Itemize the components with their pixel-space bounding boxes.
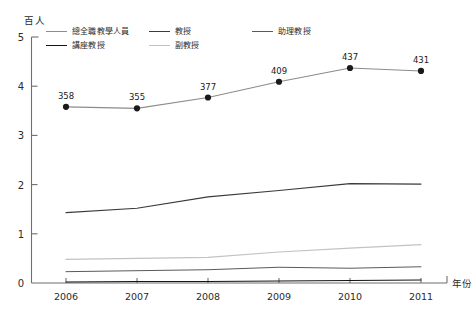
x-axis-title: 年份 <box>452 276 472 290</box>
series-line-3 <box>66 280 421 282</box>
legend-item-助理教授[interactable]: 助理教授 <box>252 28 311 36</box>
y-axis-tick-label: 5 <box>6 32 24 43</box>
x-axis-tick-label: 2007 <box>117 291 157 302</box>
legend-row: 講座教授副教授 <box>46 40 376 51</box>
x-axis-tick-label: 2010 <box>330 291 370 302</box>
legend-label: 教授 <box>175 28 191 36</box>
data-point-label: 431 <box>404 55 438 65</box>
data-point-marker <box>134 105 140 111</box>
legend-swatch-icon <box>252 31 273 32</box>
legend-swatch-icon <box>46 45 67 46</box>
data-point-label: 358 <box>49 91 83 101</box>
x-axis-tick-label: 2008 <box>188 291 228 302</box>
legend-swatch-icon <box>46 31 67 32</box>
data-point-label: 377 <box>191 82 225 92</box>
data-point-marker <box>347 65 353 71</box>
legend-item-講座教授[interactable]: 講座教授 <box>46 42 105 50</box>
legend-item-總全職教學人員[interactable]: 總全職教學人員 <box>46 28 129 36</box>
data-point-label: 409 <box>262 66 296 76</box>
legend-label: 總全職教學人員 <box>72 28 129 36</box>
y-axis-tick-label: 2 <box>6 179 24 190</box>
legend-label: 講座教授 <box>72 42 105 50</box>
y-axis-tick-label: 0 <box>6 278 24 289</box>
chart-legend: 總全職教學人員教授助理教授講座教授副教授 <box>46 26 376 54</box>
data-point-marker <box>418 68 424 74</box>
legend-label: 副教授 <box>175 42 200 50</box>
series-line-1 <box>66 184 421 213</box>
data-point-marker <box>276 79 282 85</box>
data-point-label: 355 <box>120 92 154 102</box>
y-axis-tick-label: 1 <box>6 228 24 239</box>
series-line-2 <box>66 267 421 272</box>
data-point-marker <box>63 104 69 110</box>
legend-row: 總全職教學人員教授助理教授 <box>46 26 376 37</box>
legend-swatch-icon <box>149 31 170 32</box>
legend-label: 助理教授 <box>278 28 311 36</box>
legend-swatch-icon <box>149 45 170 46</box>
data-point-label: 437 <box>333 52 367 62</box>
series-line-4 <box>66 245 421 260</box>
y-axis-tick-label: 3 <box>6 130 24 141</box>
x-axis-tick-label: 2009 <box>259 291 299 302</box>
y-axis-tick-label: 4 <box>6 81 24 92</box>
x-axis-tick-label: 2011 <box>401 291 441 302</box>
legend-item-教授[interactable]: 教授 <box>149 28 191 36</box>
legend-item-副教授[interactable]: 副教授 <box>149 42 200 50</box>
data-point-marker <box>205 94 211 100</box>
x-axis-tick-label: 2006 <box>46 291 86 302</box>
